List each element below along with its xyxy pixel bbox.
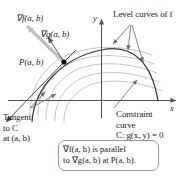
x-axis-label: x [170,103,174,114]
constraint-label-line1: Constraint [116,109,153,119]
point-p-label: P(a, b) [19,57,43,68]
constraint-label-line2: curve [116,120,163,131]
constraint-pointer [114,80,137,108]
y-axis-label: y [93,13,97,24]
level-curves-label: Level curves of f [113,9,173,20]
constraint-label-line3: C: g(x, y) = 0 [116,130,163,141]
caption-line1: ∇f(a, b) is parallel [63,144,126,154]
caption-box: ∇f(a, b) is parallel to ∇g(a, b) at P(a,… [58,140,159,171]
constraint-curve-label: Constraint curve C: g(x, y) = 0 [116,109,163,141]
gradient-f-label: ∇f(a, b) [16,13,43,24]
tangent-label-line3: at (a, b) [3,133,31,144]
level-curves-pointers [113,25,143,62]
level-pointer-1 [113,25,130,44]
point-p-marker [61,59,66,64]
level-pointer-2 [128,25,131,50]
tangent-label-line2: to C [3,123,31,134]
caption-line2: to ∇g(a, b) at P(a, b). [63,155,136,166]
tangent-label: Tangent to C at (a, b) [3,112,31,144]
tangent-label-line1: Tangent [3,112,31,122]
caption-text: ∇f(a, b) is parallel to ∇g(a, b) at P(a,… [63,144,136,166]
gradient-g-label: ∇g(a, b) [40,29,69,40]
